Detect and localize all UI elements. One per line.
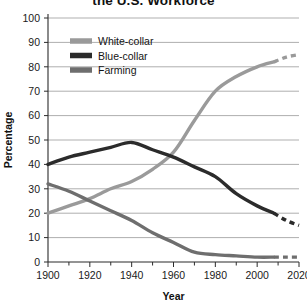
y-tick-label: 30 (28, 183, 40, 195)
x-axis-ticks (48, 262, 299, 267)
series-projection-blue-collar (274, 213, 299, 225)
y-tick-label: 20 (28, 207, 40, 219)
y-tick-label: 60 (28, 109, 40, 121)
y-tick-label: 100 (22, 12, 40, 24)
legend-swatch (70, 38, 92, 44)
legend-label: White-collar (98, 35, 154, 47)
y-axis-ticks (44, 18, 48, 262)
x-tick-label: 1980 (204, 269, 228, 281)
y-tick-label: 70 (28, 85, 40, 97)
y-tick-labels: 0102030405060708090100 (22, 12, 40, 268)
series-line-white-collar (48, 62, 274, 213)
legend-label: Blue-collar (98, 50, 148, 62)
data-series-group (48, 55, 299, 258)
axis-lines (48, 14, 299, 262)
y-tick-label: 80 (28, 61, 40, 73)
y-tick-label: 10 (28, 231, 40, 243)
chart-legend: White-collarBlue-collarFarming (70, 35, 154, 76)
y-tick-label: 90 (28, 36, 40, 48)
chart-container: the U.S. Workforce 010203040506070809010… (0, 0, 307, 308)
y-tick-label: 0 (34, 256, 40, 268)
line-chart-plot: 0102030405060708090100 19001920194019601… (0, 0, 307, 308)
gridlines (48, 18, 299, 238)
y-tick-label: 40 (28, 158, 40, 170)
y-axis-title: Percentage (2, 112, 14, 169)
legend-swatch (70, 67, 92, 73)
x-tick-labels: 1900192019401960198020002020 (36, 269, 307, 281)
series-projection-white-collar (274, 55, 299, 62)
x-axis-title: Year (162, 290, 184, 302)
legend-swatch (70, 53, 92, 59)
legend-label: Farming (98, 64, 137, 76)
x-tick-label: 2000 (245, 269, 269, 281)
x-tick-label: 1940 (120, 269, 144, 281)
x-tick-label: 1960 (162, 269, 186, 281)
y-tick-label: 50 (28, 134, 40, 146)
x-tick-label: 1900 (36, 269, 60, 281)
x-tick-label: 1920 (78, 269, 102, 281)
x-tick-label: 2020 (287, 269, 307, 281)
